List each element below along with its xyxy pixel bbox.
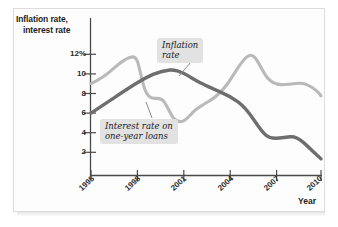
chart-figure: Inflation rate, interest rate 12% 10 8 6… (0, 0, 338, 227)
x-tick-label: 2007 (262, 174, 281, 193)
x-axis-title: Year (298, 196, 316, 206)
callout-interest-line1: Interest rate on (105, 121, 173, 131)
callout-inflation-line2: rate (162, 50, 198, 60)
x-tick-label: 1998 (123, 174, 142, 193)
x-tick-label: 1995 (77, 174, 96, 193)
callout-inflation-rate: Inflation rate (157, 38, 203, 63)
x-tick-label: 2001 (169, 174, 188, 193)
callout-inflation-line1: Inflation (162, 40, 198, 50)
x-axis-tick-labels: 1995 1998 2001 2004 2007 2010 (0, 0, 338, 227)
x-tick-label: 2010 (305, 174, 324, 193)
x-tick-label: 2004 (216, 174, 235, 193)
callout-interest-rate: Interest rate on one-year loans (100, 119, 178, 144)
callout-interest-line2: one-year loans (105, 131, 173, 141)
